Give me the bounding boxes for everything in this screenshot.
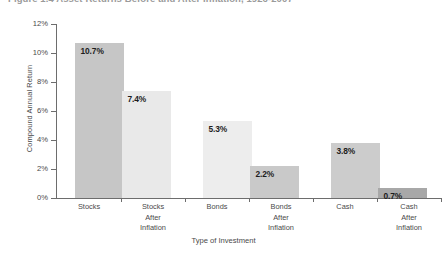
bar-value-label: 3.8% xyxy=(337,146,356,156)
y-tick-mark xyxy=(51,169,56,170)
y-tick-mark xyxy=(51,82,56,83)
bar xyxy=(75,43,124,198)
y-tick-mark xyxy=(51,53,56,54)
y-tick-mark xyxy=(51,24,56,25)
y-tick-label: 8% xyxy=(22,77,48,86)
x-axis-title: Type of Investment xyxy=(0,236,447,245)
y-tick-label: 10% xyxy=(22,48,48,57)
bar xyxy=(122,91,171,198)
y-tick-mark xyxy=(51,140,56,141)
y-tick-label: 2% xyxy=(22,164,48,173)
plot-area: 10.7%7.4%5.3%2.2%3.8%0.7% xyxy=(57,24,441,198)
bar-value-label: 0.7% xyxy=(384,191,403,201)
y-tick-label: 6% xyxy=(22,106,48,115)
x-category-label: CashAfterInflation xyxy=(369,202,447,234)
bar-chart: Compound Annual Return 0%2%4%6%8%10%12% … xyxy=(0,0,447,256)
y-tick-label: 4% xyxy=(22,135,48,144)
y-tick-mark xyxy=(51,111,56,112)
bar-value-label: 7.4% xyxy=(128,94,147,104)
bar-value-label: 2.2% xyxy=(256,169,275,179)
y-tick-label: 0% xyxy=(22,193,48,202)
y-tick-mark xyxy=(51,198,56,199)
bar-value-label: 5.3% xyxy=(209,124,228,134)
bar-value-label: 10.7% xyxy=(81,46,104,56)
y-tick-label: 12% xyxy=(22,19,48,28)
